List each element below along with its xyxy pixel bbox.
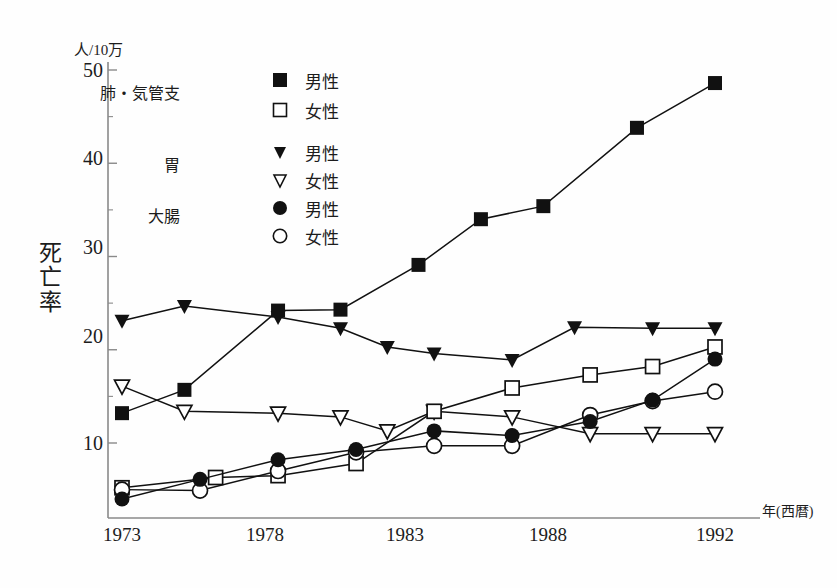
legend-label-colon-male: 男性	[305, 196, 339, 221]
legend-label-lung-female: 女性	[305, 98, 339, 123]
series-stomach-male	[115, 300, 723, 368]
x-tick-label-1973: 1973	[82, 524, 162, 546]
x-tick-label-1978: 1978	[225, 524, 305, 546]
y-tick-label-30: 30	[63, 236, 103, 259]
series-line	[122, 306, 715, 360]
y-axis-title: 死 亡 率	[36, 242, 64, 315]
legend-label-stomach-male: 男性	[305, 140, 339, 165]
chart-page: 人/10万 死 亡 率 50 40 30 20 10 1973 1978 198…	[0, 0, 837, 588]
open-square-icon	[270, 100, 290, 120]
series-line	[122, 83, 715, 413]
legend-label-colon-female: 女性	[305, 224, 339, 249]
series-stomach-female	[115, 380, 723, 442]
x-tick-label-1988: 1988	[508, 524, 588, 546]
series-lung-male	[115, 76, 722, 420]
open-triangle-down-icon	[270, 170, 290, 190]
legend-label-stomach-female: 女性	[305, 168, 339, 193]
x-axis-title: 年(西暦)	[762, 500, 813, 520]
series-colon-male	[115, 352, 723, 507]
y-axis-title-char-2: 亡	[36, 266, 64, 290]
filled-triangle-down-icon	[270, 142, 290, 162]
x-tick-label-1983: 1983	[365, 524, 445, 546]
y-tick-label-50: 50	[63, 59, 103, 82]
legend-label-lung-male: 男性	[305, 68, 339, 93]
filled-circle-icon	[270, 198, 290, 218]
legend-group-label-stomach: 胃	[80, 152, 180, 176]
x-tick-label-1992: 1992	[675, 524, 755, 546]
y-axis-title-char-3: 率	[36, 291, 64, 315]
open-circle-icon	[270, 226, 290, 246]
legend-group-label-colon: 大腸	[80, 203, 180, 227]
y-axis-title-char-1: 死	[36, 242, 64, 266]
y-tick-label-10: 10	[63, 432, 103, 455]
filled-square-icon	[270, 70, 290, 90]
y-axis-unit-label: 人/10万	[74, 38, 123, 59]
legend-group-label-lung: 肺・気管支	[80, 80, 180, 104]
y-tick-label-20: 20	[63, 325, 103, 348]
